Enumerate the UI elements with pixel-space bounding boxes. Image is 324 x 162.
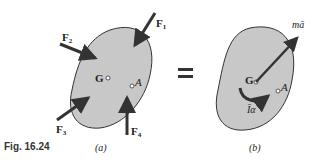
point-g-b: G bbox=[245, 75, 254, 86]
force-f1-label: F1 bbox=[156, 18, 166, 31]
force-f4-label: F4 bbox=[131, 126, 141, 139]
couple-label: Īα bbox=[247, 105, 256, 115]
panel-b-label: (b) bbox=[249, 143, 261, 153]
force-f3-label: F3 bbox=[56, 124, 66, 137]
point-g-a: G bbox=[95, 73, 104, 84]
ma-vector-label: mā bbox=[292, 20, 304, 30]
figure-caption: Fig. 16.24 bbox=[4, 141, 50, 152]
point-a-a: A bbox=[135, 77, 142, 88]
point-a-b: A bbox=[281, 82, 288, 93]
panel-a-label: (a) bbox=[95, 143, 107, 153]
force-f2-label: F2 bbox=[62, 32, 72, 45]
